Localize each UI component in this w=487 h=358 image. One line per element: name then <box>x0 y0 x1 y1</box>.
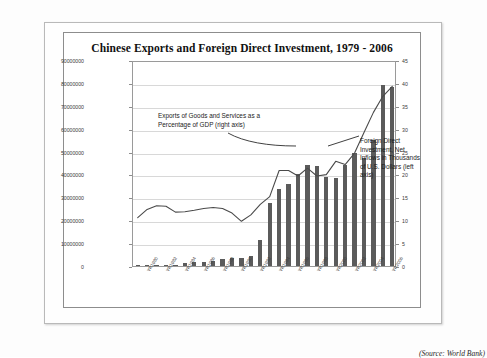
left-axis-tick-label: 10000000 <box>24 241 84 247</box>
plot-area <box>132 61 396 267</box>
right-axis-tick-label: 10 <box>402 218 432 224</box>
source-note: (Source: World Bank) <box>45 349 485 358</box>
right-axis-tick-label: 35 <box>402 104 432 110</box>
left-axis-tick-label: 50000000 <box>24 150 84 156</box>
left-axis-tick-mark <box>129 267 132 268</box>
left-axis-tick-label: 80000000 <box>24 81 84 87</box>
left-axis-tick-label: 60000000 <box>24 127 84 133</box>
exports-annotation-text: Exports of Goods and Services as a Perce… <box>158 112 260 128</box>
left-axis-tick-label: 70000000 <box>24 104 84 110</box>
figure-frame: Chinese Exports and Foreign Direct Inves… <box>44 22 442 324</box>
left-axis-tick-label: 90000000 <box>24 58 84 64</box>
right-axis-tick-label: 45 <box>402 58 432 64</box>
left-axis-tick-label: 40000000 <box>24 172 84 178</box>
exports-annotation: Exports of Goods and Services as a Perce… <box>158 112 266 129</box>
right-axis-tick-label: 5 <box>402 241 432 247</box>
line-series <box>133 62 397 268</box>
fdi-annotation: Foreign Direct Investment, Net Inflows i… <box>360 137 426 180</box>
right-axis-tick-label: 30 <box>402 127 432 133</box>
right-axis-tick-label: 40 <box>402 81 432 87</box>
fdi-annotation-text: Foreign Direct Investment, Net Inflows i… <box>360 137 420 178</box>
left-axis-tick-label: 20000000 <box>24 218 84 224</box>
right-axis-tick-label: 15 <box>402 195 432 201</box>
left-axis-tick-label: 30000000 <box>24 195 84 201</box>
left-axis-tick-label: 0 <box>24 264 84 270</box>
fdi-leader-line <box>326 135 360 149</box>
right-axis-tick-label: 0 <box>402 264 432 270</box>
exports-leader-line <box>226 132 298 148</box>
chart-container: Chinese Exports and Foreign Direct Inves… <box>63 32 421 308</box>
